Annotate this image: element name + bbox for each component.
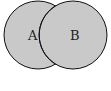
set-b-label: B bbox=[70, 28, 80, 43]
venn-diagram: A B bbox=[0, 0, 111, 91]
set-a-label: A bbox=[27, 28, 38, 43]
